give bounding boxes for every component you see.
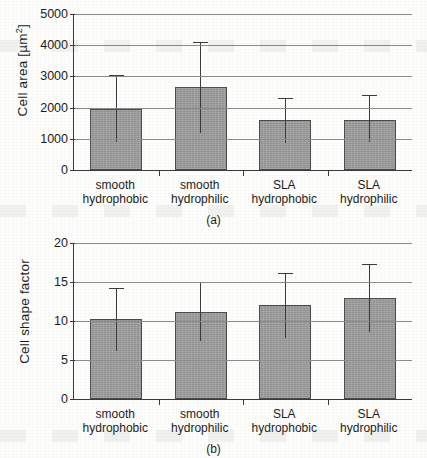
- gridline-20: [74, 243, 412, 244]
- x-tick-mark: [159, 399, 160, 405]
- chart-panel-a: Cell area [µm2] 010002000300040005000 sm…: [0, 0, 427, 229]
- y-tick-label: 10: [54, 314, 68, 328]
- gridline-5: [74, 360, 412, 361]
- bar-slot: [328, 14, 413, 170]
- plot-container-a: Cell area [µm2] 010002000300040005000 sm…: [0, 0, 427, 190]
- y-tick-label: 15: [54, 275, 68, 289]
- x-label-line: hydrophilic: [171, 192, 228, 206]
- bar-slot: [74, 14, 159, 170]
- scan-artifact-band: [0, 205, 427, 217]
- x-label-line: hydrophobic: [83, 192, 148, 206]
- x-axis-category-1: smoothhydrophobic: [83, 178, 148, 206]
- plot-area-b: 05101520: [73, 243, 412, 399]
- plot-container-b: Cell shape factor 05101520 smoothhydroph…: [0, 229, 427, 419]
- x-tick-mark: [159, 170, 160, 176]
- error-bar-2: [200, 42, 201, 133]
- gridline-5000: [74, 14, 412, 15]
- x-label-line: hydrophilic: [340, 192, 397, 206]
- x-label-line: smooth: [83, 178, 148, 192]
- error-bar-3: [285, 98, 286, 143]
- x-label-line: SLA: [252, 407, 317, 421]
- y-tick-mark: [70, 282, 75, 283]
- y-tick-mark: [70, 360, 75, 361]
- x-label-line: SLA: [340, 178, 397, 192]
- gridline-3000: [74, 76, 412, 77]
- error-cap-upper-3: [278, 273, 293, 274]
- x-axis-category-2: smoothhydrophilic: [171, 178, 228, 206]
- y-tick-label: 5: [61, 353, 68, 367]
- y-tick-label: 3000: [40, 69, 68, 83]
- x-label-line: SLA: [252, 178, 317, 192]
- y-tick-label: 0: [61, 163, 68, 177]
- error-bar-1: [116, 288, 117, 351]
- x-tick-mark: [243, 170, 244, 176]
- y-axis-label-a: Cell area [µm2]: [14, 0, 31, 145]
- y-tick-label: 5000: [40, 7, 68, 21]
- scan-artifact-band: [0, 40, 427, 52]
- error-bar-4: [369, 95, 370, 142]
- error-cap-upper-4: [362, 264, 377, 265]
- y-tick-mark: [70, 14, 75, 15]
- gridline-2000: [74, 108, 412, 109]
- x-tick-mark: [328, 170, 329, 176]
- x-label-line: smooth: [171, 178, 228, 192]
- y-axis-label-b: Cell shape factor: [17, 237, 32, 387]
- y-tick-mark: [70, 243, 75, 244]
- x-label-line: hydrophobic: [252, 192, 317, 206]
- y-tick-mark: [70, 321, 75, 322]
- error-cap-upper-1: [109, 288, 124, 289]
- x-label-line: SLA: [340, 407, 397, 421]
- plot-area-a: 010002000300040005000: [73, 14, 412, 170]
- x-label-line: smooth: [171, 407, 228, 421]
- chart-panel-b: Cell shape factor 05101520 smoothhydroph…: [0, 229, 427, 458]
- error-bar-2: [200, 282, 201, 341]
- x-axis-category-4: SLAhydrophilic: [340, 178, 397, 206]
- y-tick-mark: [70, 170, 75, 171]
- y-tick-mark: [70, 76, 75, 77]
- x-tick-mark: [243, 399, 244, 405]
- x-label-line: smooth: [83, 407, 148, 421]
- panel-caption-b: (b): [0, 442, 427, 456]
- x-axis-category-3: SLAhydrophobic: [252, 178, 317, 206]
- y-tick-mark: [70, 108, 75, 109]
- gridline-15: [74, 282, 412, 283]
- bar-slot: [159, 14, 244, 170]
- scan-artifact-band: [0, 430, 427, 442]
- gridline-1000: [74, 139, 412, 140]
- y-tick-label: 1000: [40, 132, 68, 146]
- y-tick-label: 0: [61, 392, 68, 406]
- y-tick-label: 20: [54, 236, 68, 250]
- error-cap-upper-4: [362, 95, 377, 96]
- y-tick-mark: [70, 139, 75, 140]
- gridline-10: [74, 321, 412, 322]
- bar-slot: [243, 14, 328, 170]
- error-cap-upper-3: [278, 98, 293, 99]
- x-tick-mark: [328, 399, 329, 405]
- y-tick-mark: [70, 399, 75, 400]
- y-tick-label: 2000: [40, 101, 68, 115]
- bar-group-a: [74, 14, 412, 170]
